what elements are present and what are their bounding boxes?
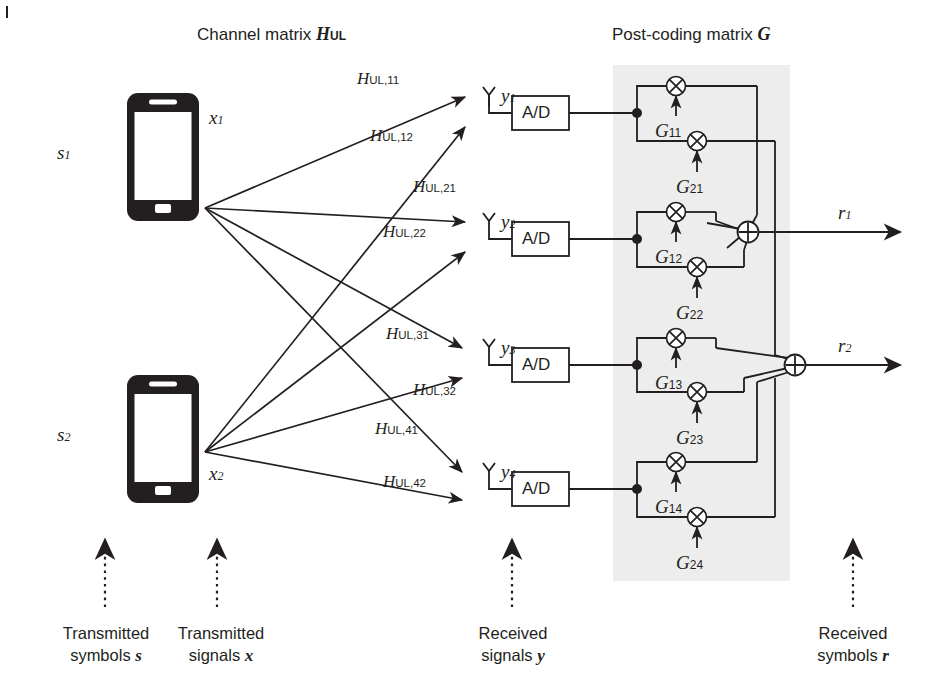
circled-times-icon-g13	[667, 329, 686, 348]
signal-label-y2: y2	[501, 212, 515, 231]
junction-dot-icon-2	[632, 234, 642, 244]
signal-label-x2: x2	[209, 464, 223, 483]
diagram-vector-layer	[0, 0, 931, 696]
gain-label-g24: G24	[676, 553, 703, 572]
channel-label-ul22: HUL,22	[383, 223, 426, 240]
channel-matrix-symbol-sub: UL	[330, 29, 346, 43]
ad-converter-label-3: A/D	[522, 356, 550, 373]
channel-matrix-symbol: H	[316, 24, 330, 44]
channel-matrix-title: Channel matrix HUL	[197, 25, 346, 43]
channel-label-ul32: HUL,32	[413, 381, 456, 398]
gain-label-g22: G22	[676, 303, 703, 322]
channel-label-ul12: HUL,12	[370, 127, 413, 144]
ad-converter-label-1: A/D	[522, 104, 550, 121]
output-label-r2: r2	[838, 336, 851, 355]
channel-label-ul21: HUL,21	[413, 178, 456, 195]
figure-canvas: Channel matrix HUL Post-coding matrix G …	[0, 0, 931, 696]
signal-label-y4: y4	[501, 462, 515, 481]
smartphone-icon-2	[127, 375, 199, 503]
stage-caption-r: Received symbols r	[770, 622, 931, 668]
symbol-label-s2: s2	[57, 425, 70, 444]
gain-label-g12: G12	[655, 247, 682, 266]
circled-plus-icon-r1	[738, 222, 759, 243]
channel-ray-group	[205, 97, 465, 500]
channel-label-ul42: HUL,42	[383, 473, 426, 490]
circled-plus-icon-r2	[785, 355, 806, 376]
channel-ray-ul22	[205, 252, 465, 452]
gain-label-g11: G11	[655, 121, 681, 140]
channel-ray-ul21	[205, 208, 465, 222]
stage-caption-y: Received signals y	[430, 622, 596, 668]
gain-label-g14: G14	[655, 497, 682, 516]
junction-dot-icon-1	[632, 108, 642, 118]
symbol-label-s1: s1	[57, 143, 70, 162]
circled-times-icon-g23	[688, 383, 707, 402]
circled-times-icon-g11	[667, 77, 686, 96]
postcoding-matrix-symbol: G	[758, 24, 771, 44]
circled-times-icon-g14	[667, 453, 686, 472]
channel-ray-ul12	[205, 127, 465, 452]
gain-label-g13: G13	[655, 373, 682, 392]
gain-label-g23: G23	[676, 428, 703, 447]
signal-label-x1: x1	[209, 108, 223, 127]
stage-caption-x: Transmitted signals x	[135, 622, 307, 668]
ad-converter-label-4: A/D	[522, 480, 550, 497]
signal-label-y3: y3	[501, 338, 515, 357]
ad-converter-label-2: A/D	[522, 230, 550, 247]
signal-label-y1: y1	[501, 86, 515, 105]
channel-label-ul31: HUL,31	[386, 325, 429, 342]
circled-times-icon-g24	[688, 508, 707, 527]
circled-times-icon-g22	[688, 258, 707, 277]
postcoding-matrix-title: Post-coding matrix G	[612, 25, 771, 43]
circled-times-icon-g12	[667, 203, 686, 222]
junction-dot-icon-3	[632, 360, 642, 370]
postcoding-matrix-title-text: Post-coding matrix	[612, 25, 753, 44]
smartphone-icon-1	[127, 93, 199, 221]
gain-label-g21: G21	[676, 177, 703, 196]
circled-times-icon-g21	[688, 132, 707, 151]
channel-label-ul11: HUL,11	[357, 70, 399, 87]
channel-matrix-title-text: Channel matrix	[197, 25, 311, 44]
channel-label-ul41: HUL,41	[375, 420, 418, 437]
output-label-r1: r1	[838, 203, 851, 222]
junction-dot-icon-4	[632, 484, 642, 494]
